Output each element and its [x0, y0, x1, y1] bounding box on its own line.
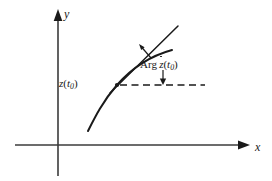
angle-indicator-arrow-up-group — [139, 44, 151, 58]
complex-plane-figure: y x z(t0) Arg z(t0) — [0, 0, 272, 181]
y-axis-label: y — [64, 8, 69, 20]
y-axis-arrowhead — [54, 9, 63, 21]
point-label-z-t0: z(t0) — [59, 78, 78, 91]
angle-indicator-arrow-down-group — [160, 70, 166, 85]
point-label-close-paren: ) — [74, 77, 78, 89]
angle-label-zdot: z — [159, 59, 163, 70]
angle-label-arg-zdot-t0: Arg z(t0) — [140, 59, 178, 72]
x-axis-label: x — [255, 141, 260, 153]
angle-label-close-paren: ) — [174, 58, 178, 70]
angle-arrow-down-head — [160, 79, 166, 85]
figure-canvas — [0, 0, 272, 181]
point-marker-z-t0 — [115, 83, 119, 87]
angle-label-arg-operator: Arg — [140, 58, 157, 70]
x-axis-arrowhead — [238, 141, 250, 150]
